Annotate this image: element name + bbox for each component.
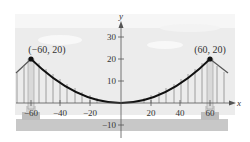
x-axis-label: x (236, 98, 241, 108)
y-tick-label: 20 (107, 54, 117, 64)
y-tick-label: −10 (102, 120, 117, 130)
point-right-label: (60, 20) (194, 44, 226, 56)
x-tick-label: 40 (176, 108, 186, 118)
cloud (160, 24, 220, 32)
point-left-label: (−60, 20) (28, 44, 65, 56)
x-tick-label: 60 (206, 108, 216, 118)
x-tick-label: −60 (24, 108, 39, 118)
cloud (147, 41, 183, 49)
point-right (207, 56, 212, 61)
bridge-diagram: y x 30 20 10 −10 −60 −40 −20 20 40 60 (−… (0, 0, 250, 142)
point-left (28, 56, 33, 61)
x-tick-label: −40 (53, 108, 68, 118)
x-tick-label: −20 (83, 108, 98, 118)
x-tick-label: 20 (147, 108, 157, 118)
y-tick-label: 10 (107, 76, 117, 86)
y-tick-label: 30 (107, 32, 117, 42)
y-axis-label: y (118, 11, 123, 21)
